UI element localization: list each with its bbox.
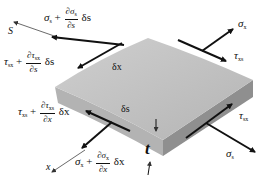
thickness-arrow-bottom bbox=[148, 162, 150, 175]
tau-xs-label: τxs bbox=[234, 50, 243, 62]
tau-sx-plus-label: τsx + ∂τsx∂s δs bbox=[4, 50, 54, 74]
plate-diagram bbox=[0, 0, 271, 190]
tau-sx-label: τsx bbox=[239, 110, 248, 122]
tau-xs-plus-label: τxs + ∂τxs∂x δx bbox=[18, 100, 69, 124]
delta-s-edge-label: δs bbox=[121, 104, 130, 114]
sigma-s-label: σs bbox=[226, 148, 234, 160]
sigma-x-plus-arrow bbox=[82, 122, 112, 148]
delta-x-edge-label: δx bbox=[112, 62, 122, 72]
sigma-x-label: σx bbox=[238, 18, 246, 30]
plate-top-face bbox=[55, 38, 253, 140]
thickness-label: t bbox=[145, 140, 150, 157]
sigma-s-plus-label: σs + ∂σs∂s δs bbox=[44, 6, 91, 30]
plate bbox=[55, 38, 253, 156]
sigma-x-arrow bbox=[202, 29, 233, 51]
sigma-x-plus-label: σx + ∂σx∂x δx bbox=[75, 150, 124, 174]
s-axis-label: S bbox=[8, 26, 13, 36]
x-axis-label: x bbox=[46, 162, 50, 172]
sigma-s-plus-arrow bbox=[52, 37, 124, 45]
